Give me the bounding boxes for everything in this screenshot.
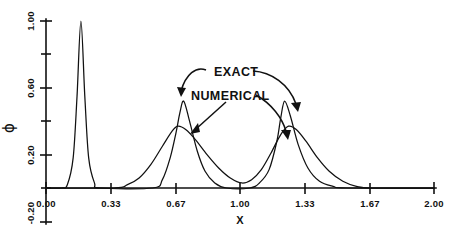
annotation-numerical: NUMERICAL xyxy=(191,89,270,103)
axis-group xyxy=(46,19,436,224)
x-tick-label-1.00: 1.00 xyxy=(230,198,249,209)
figure-container: 1.00 0.60 0.20 -0.20 ϕ 0.00 0.33 0.67 1.… xyxy=(0,0,453,241)
annotation-exact: EXACT xyxy=(214,65,258,79)
chart-plot: 1.00 0.60 0.20 -0.20 ϕ 0.00 0.33 0.67 1.… xyxy=(0,0,453,241)
x-tick-label-0.33: 0.33 xyxy=(101,198,120,209)
y-tick-label-0.60: 0.60 xyxy=(25,78,36,97)
y-tick-label-1.00: 1.00 xyxy=(25,11,36,30)
arrowhead-exact-left xyxy=(177,87,186,97)
curve-group xyxy=(46,21,434,189)
curve-exact xyxy=(46,21,434,189)
x-tick-label-1.67: 1.67 xyxy=(360,198,379,209)
y-tick-label-group: 1.00 0.60 0.20 -0.20 xyxy=(25,11,36,224)
x-tick-label-group: 0.00 0.33 0.67 1.00 1.33 1.67 2.00 xyxy=(36,198,443,209)
y-tick-label-0.20: 0.20 xyxy=(25,145,36,164)
annotation-text-group: EXACT NUMERICAL xyxy=(191,65,270,103)
y-tick-label--0.20: -0.20 xyxy=(25,202,36,225)
leader-exact-left xyxy=(181,69,206,91)
arrowhead-numerical-right xyxy=(281,130,291,140)
x-axis-title: X xyxy=(236,214,244,226)
arrowhead-exact-right xyxy=(291,102,301,112)
x-tick-label-0.67: 0.67 xyxy=(166,198,185,209)
x-tick-label-2.00: 2.00 xyxy=(424,198,443,209)
curve-numerical xyxy=(46,126,434,188)
x-tick-label-0.00: 0.00 xyxy=(36,198,55,209)
x-tick-label-1.33: 1.33 xyxy=(295,198,314,209)
annotation-leaders xyxy=(177,69,301,140)
leader-numerical-left xyxy=(196,102,226,129)
y-axis-title: ϕ xyxy=(0,123,18,133)
